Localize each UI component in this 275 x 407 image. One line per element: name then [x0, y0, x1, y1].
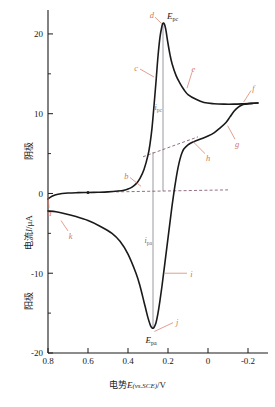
- callout-label-c: c: [134, 63, 138, 73]
- y-axis-cathodic-label: 阴极: [22, 142, 35, 160]
- callout-label-h: h: [206, 153, 210, 163]
- peak-label-Epa: Epa: [144, 335, 157, 346]
- y-axis-title: 电流I/μA: [22, 215, 35, 250]
- y-tick-label: -10: [31, 269, 43, 279]
- measurement-label-ipc: ipc: [154, 103, 162, 113]
- callout-label-e: e: [191, 64, 195, 74]
- y-tick-label: 0: [39, 189, 44, 199]
- measurement-label-text: ipc: [154, 103, 162, 113]
- x-tick-label: -0.2: [241, 356, 255, 366]
- measurement-label-text: ipa: [144, 236, 152, 246]
- callout-leader-c: [140, 69, 154, 77]
- y-tick-label: 10: [34, 109, 44, 119]
- switching-marker-dot: [87, 191, 90, 194]
- x-axis-title-text: 电势E(vs.SCE)/V: [109, 380, 166, 390]
- callout-leader-j: [154, 323, 173, 332]
- x-tick-label: 0.8: [42, 356, 54, 366]
- x-tick-label: 0.4: [122, 356, 134, 366]
- x-tick-label: 0.2: [162, 356, 173, 366]
- callout-leader-h: [193, 142, 205, 154]
- callout-label-b: b: [124, 171, 128, 181]
- callout-leader-k: [61, 221, 68, 231]
- y-axis-anodic-label: 阳极: [22, 292, 35, 310]
- y-tick-label: 20: [34, 29, 44, 39]
- measurement-label-ipa: ipa: [144, 236, 152, 246]
- chart-figure: 20100-10-200.80.60.40.20-0.2ipcipaEpcEpa…: [0, 0, 275, 407]
- callout-label-j: j: [175, 317, 179, 327]
- callout-label-k: k: [69, 231, 73, 241]
- callout-label-g: g: [235, 139, 239, 149]
- cyclic-voltammogram-plot: 20100-10-200.80.60.40.20-0.2ipcipaEpcEpa…: [0, 0, 275, 407]
- callout-label-d: d: [150, 10, 155, 20]
- callout-label-f: f: [252, 83, 256, 93]
- x-axis-title: 电势E(vs.SCE)/V: [0, 378, 275, 391]
- cathodic-baseline: [116, 190, 228, 192]
- callout-label-a: a: [47, 208, 51, 218]
- callout-leader-f: [244, 91, 251, 103]
- x-tick-label: 0.6: [82, 356, 94, 366]
- callout-leader-g: [228, 126, 235, 140]
- callout-leader-e: [187, 72, 192, 88]
- peak-label-Epc: Epc: [166, 11, 179, 22]
- callout-label-i: i: [190, 269, 193, 279]
- x-tick-label: 0: [206, 356, 211, 366]
- callout-leader-d: [155, 17, 162, 23]
